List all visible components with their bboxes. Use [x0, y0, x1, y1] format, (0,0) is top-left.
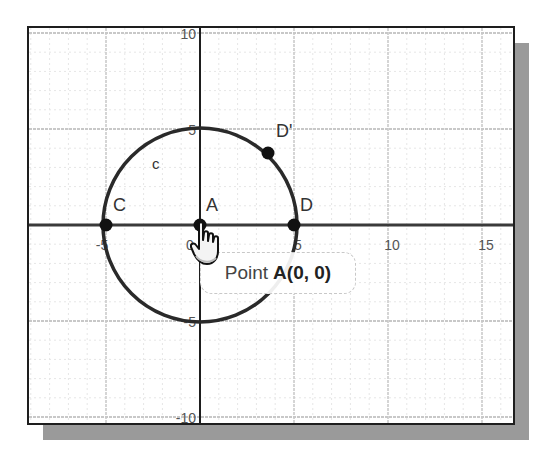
graphics-view[interactable]: 0-5051015105-5-10 c ACDD': [27, 26, 515, 425]
x-tick-label: 15: [478, 237, 494, 253]
points: ACDD': [100, 121, 314, 232]
circle-label-c: c: [152, 155, 160, 172]
y-tick-label: -10: [176, 410, 196, 423]
point-D-prime[interactable]: [262, 147, 275, 160]
point-label-D-prime: D': [276, 121, 292, 141]
point-C[interactable]: [100, 219, 113, 232]
x-tick-label: 10: [384, 237, 400, 253]
point-label-C: C: [113, 195, 126, 215]
hand-pointer-icon: [190, 220, 230, 268]
coordinate-plane[interactable]: 0-5051015105-5-10 c ACDD': [29, 28, 513, 423]
point-label-A: A: [206, 195, 218, 215]
stage: 0-5051015105-5-10 c ACDD' PointA(0, 0): [0, 0, 556, 460]
y-tick-label: 10: [180, 28, 196, 42]
point-label-D: D: [300, 195, 313, 215]
tooltip-value: A(0, 0): [273, 262, 331, 284]
point-D[interactable]: [288, 219, 301, 232]
tooltip-prefix: Point: [225, 262, 268, 284]
